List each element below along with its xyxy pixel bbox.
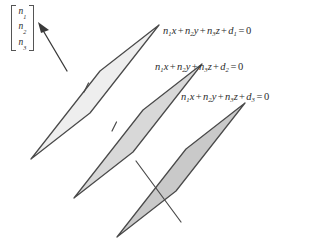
vector-entry-3: n3 <box>19 38 27 49</box>
normal-vector-arrowhead <box>38 22 49 33</box>
vector-subscript-2: 2 <box>23 28 26 35</box>
eq3-op1: + <box>195 91 203 102</box>
eq1-op2: + <box>198 25 206 36</box>
eq3-op2: + <box>216 91 224 102</box>
eq1-d-sub: 1 <box>234 30 237 37</box>
eq2-op2: + <box>190 61 198 72</box>
eq2-x: x <box>164 61 169 72</box>
eq1-equals: = <box>237 25 246 36</box>
eq1-op3: + <box>220 25 228 36</box>
vector-subscript-3: 3 <box>23 44 26 51</box>
vector-subscript-1: 1 <box>23 13 26 20</box>
eq1-x: x <box>172 25 177 36</box>
eq2-n3-sub: 3 <box>204 66 207 73</box>
bracket-right-icon <box>29 5 34 51</box>
eq3-n1-sub: 1 <box>186 96 189 103</box>
plane-equation-1: n1x+n2y+n3z+d1=0 <box>163 26 251 37</box>
normal-stub-plane-2 <box>112 122 117 131</box>
eq3-n2-sub: 2 <box>208 96 211 103</box>
eq1-rhs: 0 <box>246 25 251 36</box>
vector-entry-1: n1 <box>19 7 27 18</box>
plane-equation-2: n1x+n2y+n3z+d2=0 <box>155 62 243 73</box>
plane-equation-3: n1x+n2y+n3z+d3=0 <box>181 92 269 103</box>
normal-vector-matrix: n1 n2 n3 <box>11 5 34 51</box>
eq1-n2-sub: 2 <box>190 30 193 37</box>
eq2-n2-sub: 2 <box>182 66 185 73</box>
eq1-d: d <box>228 25 233 36</box>
eq1-n1-sub: 1 <box>168 30 171 37</box>
eq3-rhs: 0 <box>264 91 269 102</box>
eq2-equals: = <box>229 61 238 72</box>
eq2-op3: + <box>212 61 220 72</box>
normal-vector-arrow-shaft <box>41 27 67 71</box>
vector-entry-2: n2 <box>19 22 27 33</box>
eq2-d-sub: 2 <box>226 66 229 73</box>
eq1-op1: + <box>177 25 185 36</box>
eq3-d-sub: 3 <box>252 96 255 103</box>
eq3-d: d <box>246 91 251 102</box>
eq2-d: d <box>220 61 225 72</box>
eq2-rhs: 0 <box>238 61 243 72</box>
planes-diagram <box>0 0 318 242</box>
eq3-n3-sub: 3 <box>230 96 233 103</box>
eq3-x: x <box>190 91 195 102</box>
eq2-op1: + <box>169 61 177 72</box>
eq2-n1-sub: 1 <box>160 66 163 73</box>
eq1-n3-sub: 3 <box>212 30 215 37</box>
vector-entries: n1 n2 n3 <box>16 5 29 51</box>
figure-root: n1 n2 n3 n1x+n2y+n3z+d1=0 n1x+n2y+n3z+d2… <box>0 0 318 242</box>
eq3-equals: = <box>255 91 264 102</box>
eq3-op3: + <box>238 91 246 102</box>
